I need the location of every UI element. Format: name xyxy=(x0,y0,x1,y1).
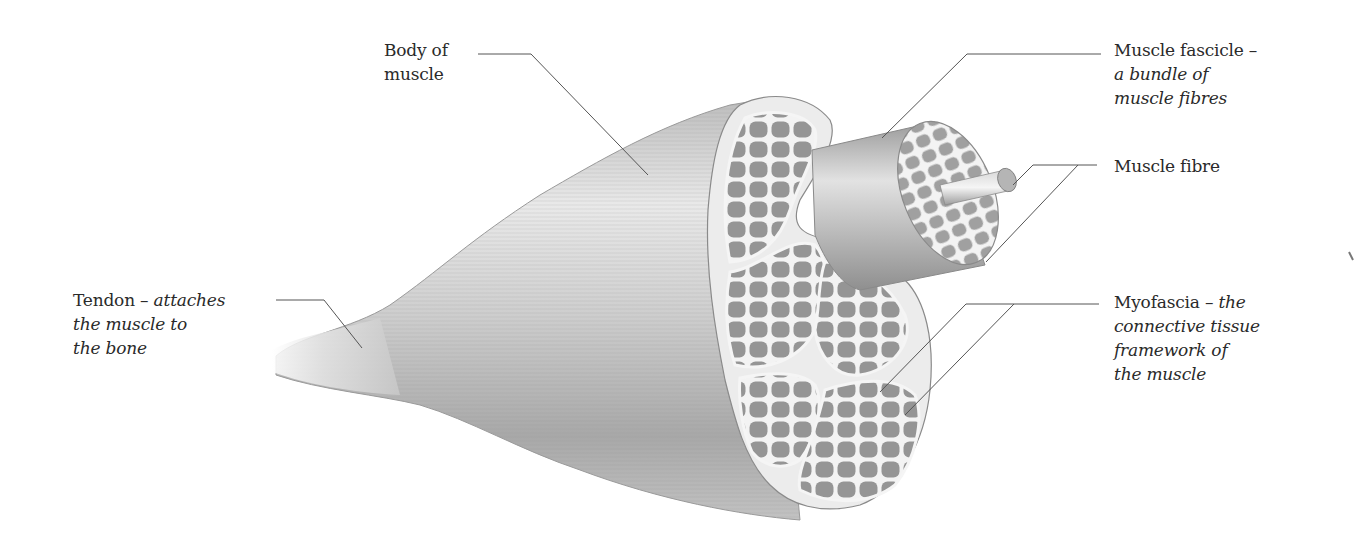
label-fascicle-desc1: a bundle of xyxy=(1114,62,1257,86)
label-body-of-muscle: Body of muscle xyxy=(384,38,448,86)
label-muscle-fibre: Muscle fibre xyxy=(1114,154,1220,178)
label-muscle-fascicle: Muscle fascicle – a bundle of muscle fib… xyxy=(1114,38,1257,110)
label-myofascia-desc2: framework of xyxy=(1114,338,1260,362)
label-myofascia-term: Myofascia – xyxy=(1114,292,1218,312)
label-tendon-term: Tendon – xyxy=(73,290,154,310)
label-tendon: Tendon – attaches the muscle to the bone xyxy=(73,288,225,360)
muscle-fascicle xyxy=(812,107,1018,290)
label-myofascia-desc0: the xyxy=(1218,292,1245,312)
label-fascicle-desc2: muscle fibres xyxy=(1114,86,1257,110)
label-tendon-desc1: the muscle to xyxy=(73,312,225,336)
label-myofascia-desc1: connective tissue xyxy=(1114,314,1260,338)
label-myofascia: Myofascia – the connective tissue framew… xyxy=(1114,290,1260,386)
fibre-leader-a xyxy=(1013,165,1097,185)
label-fibre-term: Muscle fibre xyxy=(1114,154,1220,178)
stray-mark xyxy=(1349,252,1353,260)
label-myofascia-desc3: the muscle xyxy=(1114,362,1260,386)
tendon xyxy=(272,318,400,395)
label-body-line1: Body of xyxy=(384,38,448,62)
label-tendon-desc0: attaches xyxy=(154,290,226,310)
muscle-diagram: Body of muscle Muscle fascicle – a bundl… xyxy=(0,0,1367,555)
label-tendon-desc2: the bone xyxy=(73,336,225,360)
label-fascicle-term: Muscle fascicle – xyxy=(1114,38,1257,62)
label-body-line2: muscle xyxy=(384,62,448,86)
